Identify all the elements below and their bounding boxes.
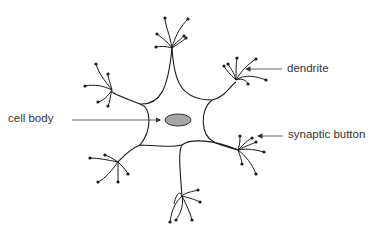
cell-body-label: cell body	[8, 112, 53, 124]
dendrite-tuft-upper-left	[85, 64, 112, 106]
nucleus	[165, 114, 191, 126]
dendrite-tuft-upper-right	[224, 58, 266, 84]
dendrite-label: dendrite	[287, 62, 329, 74]
dendrite-tuft-bottom	[170, 190, 200, 222]
dendrite-tuft-right	[238, 136, 264, 174]
dendrite-tuft-top	[156, 18, 188, 48]
neuron-diagram	[0, 0, 391, 239]
dendrite-tuft-lower-left	[90, 155, 128, 182]
synaptic-button-label: synaptic button	[288, 128, 365, 140]
